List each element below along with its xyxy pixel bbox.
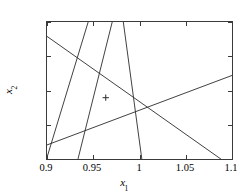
x-axis-title: x1	[0, 176, 249, 191]
y-ticklabels: 0.9 0.95 1 1.05 1.1	[0, 0, 249, 196]
x-axis-title-subscript: 1	[125, 184, 129, 193]
y-axis-title-subscript: 2	[11, 86, 20, 90]
y-axis-title: x2	[2, 72, 17, 108]
y-axis-title-base: x	[2, 89, 14, 94]
figure: 0.9 0.95 1 1.05 1.1 0.9 0.95 1 1.05 1.1 …	[0, 0, 249, 196]
